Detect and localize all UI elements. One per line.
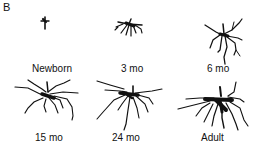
neuron-6mo	[205, 19, 242, 64]
neuron-15mo	[15, 80, 78, 120]
neuron-adult	[178, 82, 248, 130]
label-adult: Adult	[201, 132, 224, 143]
neuron-24mo	[97, 81, 162, 130]
neuron-newborn	[41, 17, 49, 29]
label-3mo: 3 mo	[121, 63, 143, 74]
label-15mo: 15 mo	[35, 132, 63, 143]
neuron-3mo	[115, 19, 142, 36]
label-24mo: 24 mo	[112, 132, 140, 143]
label-6mo: 6 mo	[207, 63, 229, 74]
label-newborn: Newborn	[32, 63, 72, 74]
